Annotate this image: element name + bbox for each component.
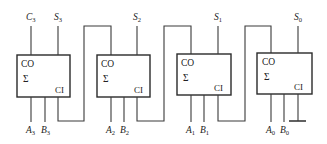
ci-pin-label: CI — [55, 85, 64, 95]
sigma-symbol: Σ — [23, 74, 29, 84]
ci-pin-label: CI — [134, 85, 143, 95]
b-input-label: B0 — [280, 125, 289, 136]
ci-pin-label: CI — [294, 82, 303, 92]
ci-pin-label: CI — [214, 83, 223, 93]
a-input-label: A2 — [105, 125, 115, 136]
sum-label: S1 — [214, 12, 222, 23]
b-input-label: B3 — [41, 125, 50, 136]
a-input-label: A3 — [25, 125, 35, 136]
sigma-symbol: Σ — [264, 72, 270, 82]
full-adder-1: CO Σ CI S1 A1 B1 — [177, 12, 231, 136]
sum-label: S0 — [294, 12, 302, 23]
sigma-symbol: Σ — [183, 73, 189, 83]
full-adder-0: CO Σ CI S0 A0 B0 — [257, 12, 312, 136]
a-input-label: A1 — [185, 125, 195, 136]
ripple-carry-adder-diagram: CO Σ CI C3 S3 A3 B3 CO Σ CI S2 A2 B2 CO … — [0, 0, 327, 144]
b-input-label: B1 — [200, 125, 209, 136]
co-pin-label: CO — [21, 59, 34, 69]
sum-label: S3 — [54, 12, 62, 23]
full-adder-3: CO Σ CI C3 S3 A3 B3 — [17, 12, 70, 136]
a-input-label: A0 — [265, 125, 275, 136]
sum-label: S2 — [133, 12, 141, 23]
carry-out-label: C3 — [26, 12, 36, 23]
co-pin-label: CO — [181, 58, 194, 68]
co-pin-label: CO — [262, 57, 275, 67]
full-adder-2: CO Σ CI S2 A2 B2 — [97, 12, 150, 136]
b-input-label: B2 — [120, 125, 129, 136]
co-pin-label: CO — [101, 59, 114, 69]
sigma-symbol: Σ — [103, 74, 109, 84]
